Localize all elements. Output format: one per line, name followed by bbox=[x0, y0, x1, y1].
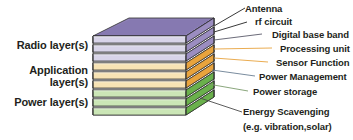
leader-power-management bbox=[212, 70, 255, 76]
power-group-label-text: Power layer(s) bbox=[14, 96, 88, 108]
energy-scavenging-sublabel-text: (e.g. vibration,solar) bbox=[243, 121, 332, 132]
application-group-label-line2: layer(s) bbox=[2, 77, 88, 89]
power-storage-label: Power storage bbox=[253, 86, 317, 97]
sensor-function-label-text: Sensor Function bbox=[276, 57, 349, 68]
processing-unit-label: Processing unit bbox=[280, 43, 350, 54]
leader-antenna bbox=[214, 8, 245, 26]
power-management-label-text: Power Management bbox=[259, 71, 347, 82]
energy-scavenging-sublabel: (e.g. vibration,solar) bbox=[243, 121, 332, 132]
application-group-label-line1: Application bbox=[2, 65, 88, 77]
power-storage-label-text: Power storage bbox=[253, 86, 317, 97]
antenna-label: Antenna bbox=[245, 3, 282, 14]
stack-diagram-figure: Radio layer(s) Application layer(s) Powe… bbox=[0, 0, 353, 140]
rf-circuit-label-text: rf circuit bbox=[255, 16, 292, 27]
sensor-function-label: Sensor Function bbox=[276, 57, 349, 68]
rf-circuit-label: rf circuit bbox=[255, 16, 292, 27]
power-management-label: Power Management bbox=[259, 71, 347, 82]
digital-base-band-label-text: Digital base band bbox=[272, 29, 349, 40]
leader-sensor-function bbox=[214, 58, 268, 62]
radio-group-label-text: Radio layer(s) bbox=[17, 39, 88, 51]
application-group-label: Application layer(s) bbox=[2, 65, 88, 88]
leader-digital-base-band bbox=[214, 34, 262, 40]
energy-scavenging-label-text: Energy Scavenging bbox=[243, 106, 329, 117]
processing-unit-label-text: Processing unit bbox=[280, 43, 350, 54]
power-group-label: Power layer(s) bbox=[4, 96, 88, 108]
energy-scavenging-label: Energy Scavenging bbox=[243, 106, 329, 117]
leader-processing-unit bbox=[214, 48, 272, 49]
antenna-label-text: Antenna bbox=[245, 3, 282, 14]
radio-group-label: Radio layer(s) bbox=[6, 39, 88, 51]
digital-base-band-label: Digital base band bbox=[272, 29, 349, 40]
leader-energy-scavenging bbox=[200, 98, 242, 112]
